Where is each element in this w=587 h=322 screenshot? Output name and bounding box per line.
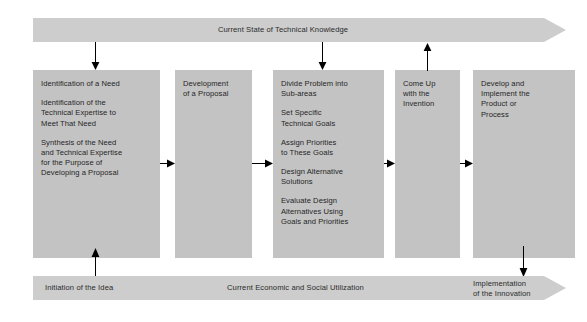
box5-paragraph-1: Develop and Implement the Product or Pro… <box>481 79 567 120</box>
box2-paragraph-1: Development of a Proposal <box>183 79 244 99</box>
box1-paragraph-3: Synthesis of the Need and Technical Expe… <box>41 138 152 179</box>
box3-paragraph-3: Assign Priorities to These Goals <box>281 138 376 158</box>
box3-paragraph-2: Set Specific Technical Goals <box>281 108 376 128</box>
box3-paragraph-4: Design Alternative Solutions <box>281 167 376 187</box>
arrow-divide-to-invention <box>384 157 396 170</box>
top-banner-label: Current State of Technical Knowledge <box>33 18 533 42</box>
bottom-banner-label-initiation: Initiation of the Idea <box>45 276 113 300</box>
box3-paragraph-1: Divide Problem into Sub-areas <box>281 79 376 99</box>
box-development-of-proposal[interactable]: Development of a Proposal <box>175 70 252 258</box>
box4-paragraph-1: Come Up with the Invention <box>403 79 452 110</box>
box-identification-of-need[interactable]: Identification of a Need Identification … <box>33 70 160 258</box>
top-banner-arrow: Current State of Technical Knowledge <box>33 18 566 42</box>
arrow-idea-to-need <box>89 246 102 278</box>
arrow-knowledge-to-divide <box>316 42 329 71</box>
arrow-need-to-proposal <box>160 157 176 170</box>
bottom-banner-label-implementation: Implementation of the Innovation <box>473 279 531 298</box>
arrow-proposal-to-divide <box>252 157 274 170</box>
box1-paragraph-2: Identification of the Technical Expertis… <box>41 98 152 129</box>
box-come-up-with-invention[interactable]: Come Up with the Invention <box>395 70 460 258</box>
box-develop-and-implement[interactable]: Develop and Implement the Product or Pro… <box>473 70 575 258</box>
arrow-invention-to-knowledge <box>421 42 434 71</box>
bottom-banner-label-utilization: Current Economic and Social Utilization <box>227 276 364 300</box>
box3-paragraph-5: Evaluate Design Alternatives Using Goals… <box>281 196 376 227</box>
box-divide-problem[interactable]: Divide Problem into Sub-areas Set Specif… <box>273 70 384 258</box>
arrow-knowledge-to-need <box>89 42 102 71</box>
box1-paragraph-1: Identification of a Need <box>41 79 152 89</box>
bottom-banner-arrow: Initiation of the Idea Current Economic … <box>33 276 566 300</box>
arrow-invention-to-develop <box>460 157 474 170</box>
process-flow-diagram: Current State of Technical Knowledge Ide… <box>0 0 587 322</box>
arrow-develop-to-innovation <box>517 246 530 278</box>
